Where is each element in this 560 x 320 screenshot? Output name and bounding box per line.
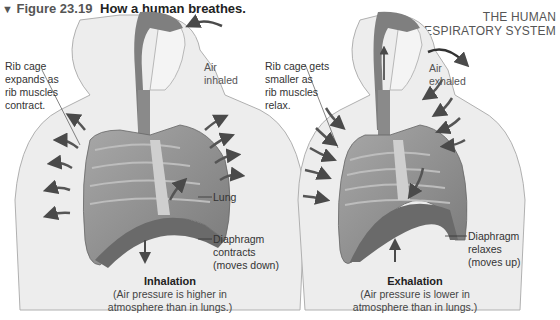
rib-expand-label: Rib cage expands as rib muscles contract… [5,60,59,112]
air-inhaled-line-1: Air [204,61,238,74]
rib-expand-line-3: rib muscles [5,86,59,99]
exhalation-title: Exhalation [345,275,485,288]
exhalation-caption: Exhalation (Air pressure is lower in atm… [345,275,485,314]
air-exhaled-line-2: exhaled [429,75,466,88]
air-exhaled-label: Air exhaled [429,62,466,88]
diaphragm-contracts-line-2: contracts [213,246,279,259]
diaphragm-relaxes-line-3: (moves up) [468,256,521,269]
air-exhaled-line-1: Air [429,62,466,75]
breathing-illustration [0,0,560,320]
inhalation-title: Inhalation [100,275,240,288]
rib-expand-line-4: contract. [5,99,59,112]
rib-expand-line-1: Rib cage [5,60,59,73]
diaphragm-relaxes-label: Diaphragm relaxes (moves up) [468,230,521,269]
lung-label: Lung [213,191,236,204]
rib-smaller-label: Rib cage gets smaller as rib muscles rel… [265,60,329,112]
diaphragm-relaxes-line-2: relaxes [468,243,521,256]
rib-smaller-line-3: rib muscles [265,86,329,99]
exhalation-desc-1: (Air pressure is lower in [345,288,485,301]
diaphragm-relaxes-line-1: Diaphragm [468,230,521,243]
air-inhaled-label: Air inhaled [204,61,238,87]
exhalation-desc-2: atmosphere than in lungs.) [345,301,485,314]
inhalation-desc-1: (Air pressure is higher in [100,288,240,301]
inhalation-caption: Inhalation (Air pressure is higher in at… [100,275,240,314]
air-inhaled-line-2: inhaled [204,74,238,87]
rib-smaller-line-1: Rib cage gets [265,60,329,73]
rib-expand-line-2: expands as [5,73,59,86]
rib-smaller-line-2: smaller as [265,73,329,86]
diaphragm-contracts-label: Diaphragm contracts (moves down) [213,233,279,272]
rib-smaller-line-4: relax. [265,99,329,112]
diaphragm-contracts-line-3: (moves down) [213,259,279,272]
inhalation-desc-2: atmosphere than in lungs.) [100,301,240,314]
diaphragm-contracts-line-1: Diaphragm [213,233,279,246]
